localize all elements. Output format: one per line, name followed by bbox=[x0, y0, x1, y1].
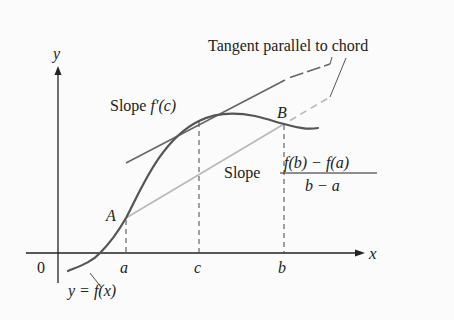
y-axis-arrow-icon bbox=[55, 66, 62, 75]
point-label-b: B bbox=[277, 104, 287, 121]
slope-chord-denominator: b − a bbox=[305, 177, 340, 194]
x-axis-arrow-icon bbox=[355, 250, 365, 257]
tick-label-a: a bbox=[120, 259, 128, 276]
diagram-canvas: y x 0 a c b A B Tangent parallel to chor… bbox=[0, 0, 454, 320]
leader-tangent bbox=[330, 57, 332, 64]
origin-label: 0 bbox=[37, 259, 45, 276]
y-axis-label: y bbox=[51, 45, 61, 63]
dashed-guides bbox=[126, 122, 284, 253]
chord-extension bbox=[290, 97, 330, 121]
slope-chord-numerator: f(b) − f(a) bbox=[284, 154, 349, 172]
tangent-extension bbox=[290, 64, 330, 78]
curve-label: y = f(x) bbox=[66, 282, 116, 300]
point-label-a: A bbox=[105, 207, 116, 224]
axes bbox=[26, 66, 365, 283]
mvt-diagram: y x 0 a c b A B Tangent parallel to chor… bbox=[0, 0, 454, 320]
slope-tangent-expr: f′(c) bbox=[150, 97, 176, 115]
tangent-line bbox=[126, 80, 285, 163]
slope-tangent-prefix: Slope bbox=[110, 97, 150, 115]
leader-chord bbox=[330, 58, 346, 97]
function-curve bbox=[68, 114, 318, 271]
tick-label-b: b bbox=[278, 259, 286, 276]
tangent-note: Tangent parallel to chord bbox=[208, 37, 368, 55]
slope-tangent-label: Slope f′(c) bbox=[110, 97, 176, 115]
tick-label-c: c bbox=[194, 259, 201, 276]
slope-chord-prefix: Slope bbox=[224, 164, 260, 182]
x-axis-label: x bbox=[368, 244, 377, 263]
